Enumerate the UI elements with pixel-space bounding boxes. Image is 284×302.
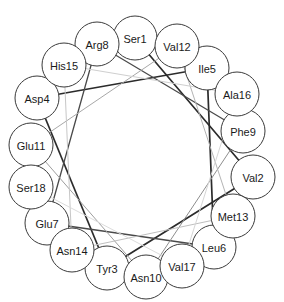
residue-label: Phe9 <box>230 126 256 138</box>
residue-label: Glu11 <box>17 140 46 152</box>
residue-node-val12[interactable]: Val12 <box>155 24 199 68</box>
helical-wheel-diagram: Ser1Val2Tyr3Asp4Ile5Leu6Glu7Arg8Phe9Asn1… <box>0 0 284 302</box>
residue-label: Tyr3 <box>96 263 117 275</box>
residue-node-ser1[interactable]: Ser1 <box>113 16 157 60</box>
residue-label: Met13 <box>218 211 249 223</box>
residue-label: Glu7 <box>35 218 58 230</box>
residue-node-ala16[interactable]: Ala16 <box>215 72 259 116</box>
residue-node-glu11[interactable]: Glu11 <box>9 123 53 167</box>
residue-label: Asn10 <box>130 272 161 284</box>
residue-label: Val12 <box>163 41 190 53</box>
residue-label: Val17 <box>168 261 195 273</box>
residue-label: Leu6 <box>202 242 226 254</box>
residue-node-ser18[interactable]: Ser18 <box>9 165 53 209</box>
residue-label: Asn14 <box>56 245 87 257</box>
residue-label: Ser1 <box>123 33 146 45</box>
residue-label: Val2 <box>242 172 263 184</box>
residue-label: Ser18 <box>16 182 45 194</box>
residue-node-val17[interactable]: Val17 <box>160 244 204 288</box>
residue-layer: Ser1Val2Tyr3Asp4Ile5Leu6Glu7Arg8Phe9Asn1… <box>9 16 275 299</box>
residue-label: Asp4 <box>24 93 49 105</box>
residue-node-asn14[interactable]: Asn14 <box>50 228 94 272</box>
residue-node-met13[interactable]: Met13 <box>211 194 255 238</box>
residue-node-val2[interactable]: Val2 <box>231 155 275 199</box>
residue-node-his15[interactable]: His15 <box>42 43 86 87</box>
residue-label: His15 <box>50 60 78 72</box>
residue-label: Arg8 <box>85 39 108 51</box>
residue-label: Ile5 <box>198 63 216 75</box>
residue-label: Ala16 <box>223 89 251 101</box>
